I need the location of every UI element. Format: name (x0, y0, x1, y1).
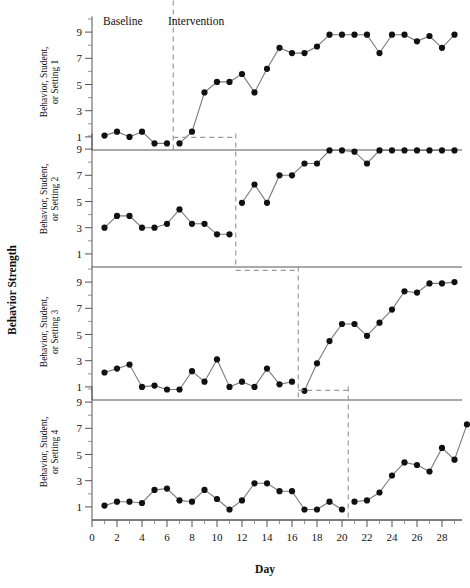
data-point (339, 321, 345, 327)
data-point (251, 181, 257, 187)
data-point (364, 497, 370, 503)
data-point (376, 320, 382, 326)
y-tick-label: 1 (77, 131, 83, 143)
data-point (189, 129, 195, 135)
x-axis-title: Day (255, 563, 275, 576)
data-point (314, 360, 320, 366)
y-tick-label: 9 (77, 396, 83, 408)
data-point (226, 384, 232, 390)
data-point (376, 147, 382, 153)
data-point (389, 32, 395, 38)
data-point (139, 500, 145, 506)
y-tick-label: 1 (77, 248, 83, 260)
data-point (251, 384, 257, 390)
data-point (101, 133, 107, 139)
data-point (176, 497, 182, 503)
data-point (351, 149, 357, 155)
chart-background (0, 0, 470, 588)
y-tick-label: 5 (77, 196, 83, 208)
panel-label-line1: Behavior, Student, (39, 417, 49, 488)
data-point (426, 468, 432, 474)
x-tick-label: 16 (287, 531, 299, 543)
y-tick-label: 9 (77, 26, 83, 38)
chart-canvas: 13579Behavior, Student,or Setting 113579… (0, 0, 470, 588)
data-point (451, 279, 457, 285)
y-tick-label: 3 (77, 355, 83, 367)
data-point (339, 147, 345, 153)
panel-label-line2: or Setting 1 (50, 59, 60, 104)
x-tick-label: 24 (387, 531, 399, 543)
data-point (264, 366, 270, 372)
data-point (164, 386, 170, 392)
data-point (239, 497, 245, 503)
x-tick-label: 28 (437, 531, 449, 543)
data-point (201, 487, 207, 493)
y-tick-label: 7 (77, 302, 83, 314)
data-point (276, 45, 282, 51)
data-point (389, 307, 395, 313)
data-point (389, 147, 395, 153)
data-point (364, 160, 370, 166)
data-point (451, 147, 457, 153)
data-point (151, 487, 157, 493)
data-point (139, 129, 145, 135)
data-point (314, 43, 320, 49)
data-point (364, 32, 370, 38)
data-point (226, 79, 232, 85)
data-point (251, 480, 257, 486)
panel-label-line1: Behavior, Student, (39, 297, 49, 368)
phase-label-baseline: Baseline (103, 15, 143, 27)
y-tick-label: 9 (77, 143, 83, 155)
data-point (176, 386, 182, 392)
data-point (401, 147, 407, 153)
data-point (426, 280, 432, 286)
data-point (176, 140, 182, 146)
data-point (401, 32, 407, 38)
data-point (351, 321, 357, 327)
multiple-baseline-figure: 13579Behavior, Student,or Setting 113579… (0, 0, 470, 588)
data-point (189, 368, 195, 374)
data-point (201, 89, 207, 95)
data-point (276, 172, 282, 178)
data-point (451, 32, 457, 38)
data-point (401, 459, 407, 465)
data-point (414, 147, 420, 153)
data-point (439, 280, 445, 286)
data-point (189, 499, 195, 505)
data-point (201, 221, 207, 227)
data-point (426, 147, 432, 153)
x-tick-label: 12 (237, 531, 248, 543)
data-point (376, 489, 382, 495)
y-tick-label: 7 (77, 52, 83, 64)
data-point (176, 206, 182, 212)
y-tick-label: 5 (77, 329, 83, 341)
x-tick-label: 0 (89, 531, 95, 543)
data-point (226, 506, 232, 512)
x-tick-label: 18 (312, 531, 324, 543)
data-point (101, 369, 107, 375)
y-tick-label: 7 (77, 422, 83, 434)
data-point (126, 213, 132, 219)
y-tick-label: 1 (77, 501, 83, 513)
data-point (114, 499, 120, 505)
data-point (264, 480, 270, 486)
data-point (326, 32, 332, 38)
data-point (126, 499, 132, 505)
data-point (351, 499, 357, 505)
y-tick-label: 5 (77, 449, 83, 461)
y-axis-title: Behavior Strength (6, 244, 19, 335)
data-point (439, 445, 445, 451)
x-tick-label: 6 (164, 531, 170, 543)
x-tick-label: 14 (262, 531, 274, 543)
data-point (201, 379, 207, 385)
data-point (164, 140, 170, 146)
y-tick-label: 5 (77, 79, 83, 91)
x-tick-label: 8 (189, 531, 195, 543)
data-point (239, 200, 245, 206)
x-tick-label: 20 (337, 531, 349, 543)
data-point (276, 488, 282, 494)
data-point (426, 33, 432, 39)
data-point (351, 32, 357, 38)
data-point (439, 45, 445, 51)
data-point (114, 129, 120, 135)
